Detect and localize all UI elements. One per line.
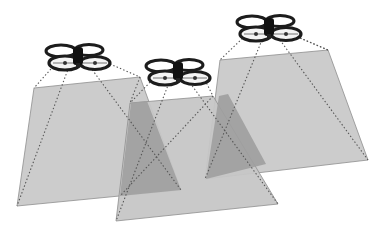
drone-coverage-diagram	[0, 0, 386, 233]
diagram-canvas	[0, 0, 386, 233]
